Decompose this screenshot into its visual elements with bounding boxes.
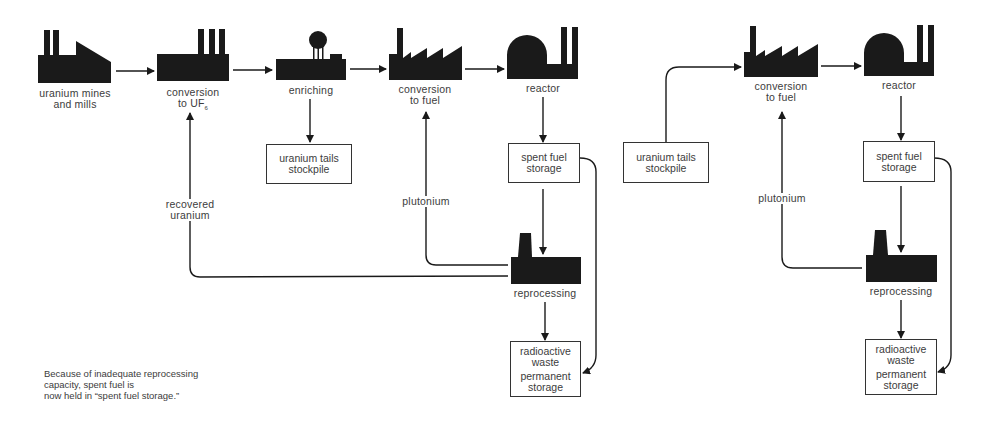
right-waste-line2: waste [887,355,914,366]
caption-note: Because of inadequate reprocessing capac… [44,368,198,401]
recovered-uranium-label: recovered uranium [160,199,220,221]
reactor-icon [507,27,578,79]
fuel-cycle-diagram [0,0,990,423]
tails-line2: stockpile [289,164,330,175]
waste-line1: radioactive [520,346,571,357]
waste-line2: waste [532,357,559,368]
right-waste-line3: permanent [876,369,926,380]
note-line1: Because of inadequate reprocessing [44,368,198,379]
right-waste-line1: radioactive [876,344,927,355]
right-spent-fuel-line2: storage [881,162,916,173]
reprocessing-plant-icon [511,233,581,284]
right-conversion-fuel-line2: to fuel [742,92,820,103]
reactor-label: reactor [506,83,580,94]
mines-label-line2: and mills [34,99,116,110]
right-conversion-fuel-factory-icon [744,26,818,77]
waste-line4: storage [528,382,563,393]
left-flow-arrows [116,69,596,373]
conversion-fuel-label: conversion to fuel [386,84,464,106]
enrichment-plant-icon [276,31,346,80]
conversion-uf6-factory-icon [157,29,229,81]
waste-line3: permanent [520,371,570,382]
note-line3: now held in “spent fuel storage.” [44,390,198,401]
right-flow-arrows [666,66,951,372]
conversion-uf6-label: conversion to UF6 [155,87,231,114]
right-reactor-label: reactor [862,80,936,91]
conversion-fuel-line2: to fuel [386,95,464,106]
mines-factory-icon [38,30,111,83]
mines-label: uranium mines and mills [34,88,116,110]
note-line2: capacity, spent fuel is [44,379,198,390]
spent-fuel-storage-box: spent fuel storage [508,143,580,183]
right-radioactive-waste-box: radioactive waste permanent storage [865,339,937,395]
right-tails-line1: uranium tails [636,152,696,163]
recovered-line2: uranium [160,210,220,221]
plutonium-label: plutonium [396,196,456,207]
right-spent-fuel-line1: spent fuel [876,151,922,162]
right-tails-line2: stockpile [646,163,687,174]
right-plutonium-label: plutonium [752,193,812,204]
enriching-label: enriching [276,85,346,96]
right-uranium-tails-stockpile-box: uranium tails stockpile [623,142,709,183]
right-conversion-fuel-label: conversion to fuel [742,81,820,103]
conversion-uf6-line2: to UF6 [155,98,231,114]
uranium-tails-stockpile-box: uranium tails stockpile [266,144,352,184]
right-waste-line4: storage [883,380,918,391]
radioactive-waste-box: radioactive waste permanent storage [510,341,581,397]
right-reprocessing-label: reprocessing [862,286,940,297]
right-spent-fuel-storage-box: spent fuel storage [863,141,935,182]
reprocessing-label: reprocessing [506,288,584,299]
conversion-uf6-text: to UF [178,97,205,109]
right-reactor-icon [864,25,934,76]
spent-fuel-line2: storage [526,163,561,174]
uf6-subscript: 6 [205,105,209,111]
conversion-fuel-factory-icon [389,28,462,80]
